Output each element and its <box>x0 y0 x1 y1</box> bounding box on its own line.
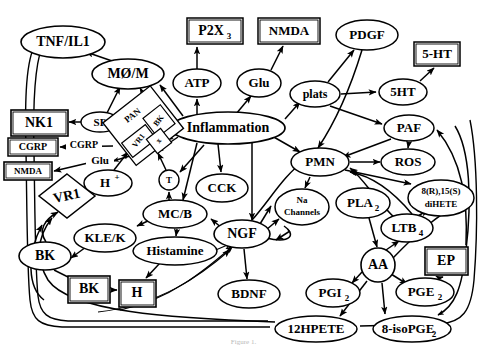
node-label-sup: + <box>114 172 119 182</box>
edge-label-glu: Glu <box>86 154 114 168</box>
node-label: PGI <box>318 285 341 300</box>
node-label: BK <box>35 248 55 263</box>
node-pmn[interactable]: PMN <box>291 148 349 176</box>
node-serotonin[interactable]: 5HT <box>379 79 427 105</box>
node-ros[interactable]: ROS <box>381 149 435 175</box>
node-label: H <box>132 285 143 300</box>
node-nmda-receptor-top[interactable]: NMDA <box>258 18 320 44</box>
node-layer: TNF/IL1 MØ/M P2X 3 ATP NMDA Glu PDGF <box>4 18 474 342</box>
node-h-receptor[interactable]: H <box>119 280 156 307</box>
edge-bk-vr1 <box>42 212 58 242</box>
edge-label-text: CGRP <box>70 139 98 150</box>
node-label: TNF/IL1 <box>36 34 90 49</box>
node-tnfil1[interactable]: TNF/IL1 <box>21 26 105 58</box>
node-label: PAF <box>397 120 421 135</box>
node-inflammation[interactable]: Inflammation <box>171 112 285 144</box>
edge-aa-pgi2 <box>352 272 362 283</box>
node-pdgf[interactable]: PDGF <box>336 20 398 50</box>
node-bk-receptor[interactable]: BK <box>68 276 110 303</box>
node-label: PMN <box>305 154 335 169</box>
node-dihete[interactable]: 8(R),15(S) diHETE <box>408 180 474 216</box>
node-label-sub: 2 <box>375 203 380 213</box>
node-label: BDNF <box>231 286 266 301</box>
edge-5ht-5htbox <box>420 68 434 81</box>
node-macrophage-monocyte[interactable]: MØ/M <box>92 59 164 89</box>
node-temperature[interactable]: T <box>159 170 179 190</box>
node-label: MØ/M <box>107 66 148 81</box>
node-label-2: diHETE <box>425 199 458 209</box>
node-label-sub: 4 <box>419 228 424 238</box>
edge-inflam-glu <box>236 96 251 114</box>
node-label: 8-isoPGE <box>382 321 435 336</box>
figure-caption: Figure 1. <box>0 338 487 353</box>
node-bradykinin[interactable]: BK <box>19 242 71 270</box>
edge-inflam-pmn <box>272 136 300 152</box>
node-label: Histamine <box>146 243 203 258</box>
edge-tcirc-pan <box>158 153 166 170</box>
node-label: CGRP <box>19 141 47 152</box>
node-label: plats <box>303 87 328 101</box>
node-bdnf[interactable]: BDNF <box>218 280 280 308</box>
node-label: NK1 <box>25 115 53 130</box>
edge-mcb-histamine <box>176 229 177 236</box>
node-nk1-receptor[interactable]: NK1 <box>11 110 68 136</box>
edge-hplus-pan <box>114 152 128 170</box>
node-nmda-receptor-left[interactable]: NMDA <box>4 162 52 180</box>
node-label: NGF <box>227 226 257 241</box>
node-arachidonic-acid[interactable]: AA <box>361 248 395 282</box>
node-na-channels[interactable]: Na Channels <box>275 189 329 225</box>
edge-inflam-mcb <box>183 143 197 200</box>
node-ep-receptor[interactable]: EP <box>425 247 468 275</box>
node-pgi2[interactable]: PGI 2 <box>306 279 360 307</box>
node-label: KLE/K <box>84 230 126 245</box>
edge-pmn-nachan <box>305 177 310 188</box>
node-label: EP <box>437 253 455 268</box>
edge-aa-ltb4 <box>386 241 399 250</box>
node-p2x3-receptor[interactable]: P2X 3 <box>187 18 243 44</box>
node-platelets[interactable]: plats <box>290 81 340 107</box>
node-label: Glu <box>249 75 270 90</box>
node-label: Inflammation <box>187 120 270 135</box>
diagram-canvas: TNF/IL1 MØ/M P2X 3 ATP NMDA Glu PDGF <box>0 0 487 353</box>
node-5ht-receptor[interactable]: 5-HT <box>414 42 460 66</box>
node-label: PLA <box>347 195 374 210</box>
node-label: T <box>166 175 172 185</box>
node-label-2: Channels <box>284 207 321 217</box>
node-cgrp-receptor[interactable]: CGRP <box>8 138 58 156</box>
node-pla2[interactable]: PLA 2 <box>336 188 390 218</box>
edge-aa-isopge <box>382 283 385 314</box>
node-histamine[interactable]: Histamine <box>133 237 217 265</box>
node-label: BK <box>79 281 99 296</box>
node-label: LTB <box>392 220 417 235</box>
node-mast-cell-basophil[interactable]: MC/B <box>143 200 207 228</box>
edge-paf-ros <box>408 142 409 148</box>
edge-label-cgrp: CGRP <box>66 139 102 153</box>
node-paf[interactable]: PAF <box>384 115 434 141</box>
node-kallikrein-kinin[interactable]: KLE/K <box>74 224 136 252</box>
edge-plats-pdgf <box>328 50 354 82</box>
edge-paf-pmn <box>343 139 391 157</box>
node-ltb4[interactable]: LTB 4 <box>381 214 433 242</box>
node-label: 8(R),15(S) <box>421 186 460 196</box>
edge-ngf-bdnf <box>244 249 247 279</box>
node-cck[interactable]: CCK <box>196 174 248 202</box>
node-label: P2X <box>198 23 224 38</box>
edge-histamine-hbox <box>146 263 160 278</box>
node-label: PGE <box>408 284 435 299</box>
node-label: 5HT <box>390 84 416 99</box>
node-pge2[interactable]: PGE 2 <box>396 278 454 306</box>
edge-label-text: Glu <box>91 154 109 166</box>
node-label-sub: 3 <box>227 31 232 41</box>
node-label-sub: 2 <box>345 293 350 303</box>
edge-glu-nmda <box>271 46 283 70</box>
node-atp[interactable]: ATP <box>173 69 221 97</box>
node-label: Na <box>297 195 308 205</box>
node-glutamate[interactable]: Glu <box>237 69 281 97</box>
node-ngf[interactable]: NGF <box>214 220 270 248</box>
edge-pge2-ep <box>439 277 443 278</box>
edge-pla2-aa <box>369 218 377 247</box>
edge-plats-paf <box>330 106 382 124</box>
node-label: AA <box>368 257 389 272</box>
node-label-sub: 2 <box>438 292 443 302</box>
node-label: 5-HT <box>422 46 452 61</box>
